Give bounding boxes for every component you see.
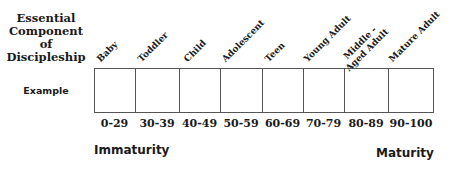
range-label: 40-49: [179, 117, 220, 130]
grid-cell: [389, 69, 433, 112]
discipleship-grid: [94, 68, 434, 113]
title-line: Discipleship: [0, 51, 92, 64]
range-label: 80-89: [344, 117, 388, 130]
example-row-label: Example: [0, 85, 92, 96]
stage-label-toddler: Toddler: [136, 30, 170, 64]
range-label: 90-100: [386, 117, 436, 130]
grid-cell: [180, 69, 221, 112]
grid-cell: [345, 69, 389, 112]
range-label: 0-29: [94, 117, 135, 130]
range-label: 50-59: [220, 117, 262, 130]
component-title: Essential Component of Discipleship: [0, 12, 92, 64]
grid-cell: [136, 69, 180, 112]
grid-cell: [221, 69, 263, 112]
stage-label-child: Child: [182, 38, 208, 64]
grid-cell: [304, 69, 345, 112]
range-label: 30-39: [135, 117, 179, 130]
stage-label-baby: Baby: [95, 39, 120, 64]
grid-cell: [263, 69, 304, 112]
range-label: 70-79: [303, 117, 344, 130]
maturity-label: Maturity: [376, 146, 434, 160]
immaturity-label: Immaturity: [94, 143, 169, 157]
stage-label-teen: Teen: [263, 40, 287, 64]
stage-label-mature-adult: Mature Adult: [387, 9, 442, 64]
grid-cell: [95, 69, 136, 112]
stage-label-adolescent: Adolescent: [220, 18, 266, 64]
range-label: 60-69: [262, 117, 303, 130]
